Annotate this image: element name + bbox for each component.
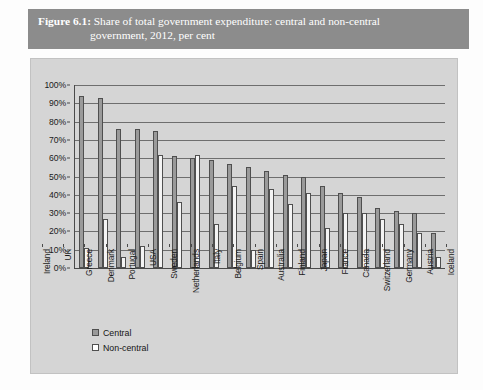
bar-group[interactable] [205,85,224,268]
x-axis-label-cell: USA [137,244,158,308]
x-axis-tick-mark [233,244,234,247]
caption-line-1: Figure 6.1: Share of total government ex… [38,14,459,28]
plot-area: 0%10%20%30%40%50%60%70%80%90%100% [74,85,445,269]
y-axis-tick-mark [67,103,70,104]
caption-line-2: government, 2012, per cent [90,28,459,42]
x-axis-tick-label: USA [148,249,158,266]
bar-group[interactable] [242,85,261,268]
x-axis-tick-mark [255,244,256,247]
x-axis-tick-mark [212,244,213,247]
bar-central[interactable] [79,96,84,268]
legend-swatch-icon [92,344,99,351]
y-axis-tick-label: 20% [49,226,66,236]
x-axis-tick-mark [191,244,192,247]
legend-label: Non-central [103,343,148,353]
bar-series-container [75,85,445,268]
x-axis-tick-label: Belgium [233,249,243,279]
bar-group[interactable] [390,85,409,268]
x-axis-label-cell: Spain [244,244,265,308]
y-axis-tick-label: 50% [49,172,66,182]
x-axis-tick-mark [127,244,128,247]
bar-group[interactable] [112,85,131,268]
y-axis-tick-mark [67,121,70,122]
legend-swatch-icon [92,329,99,336]
bar-group[interactable] [334,85,353,268]
x-axis-tick-mark [361,244,362,247]
x-axis-label-cell: Iceland [436,244,457,308]
y-axis-tick-label: 100% [44,80,66,90]
bar-group[interactable] [260,85,279,268]
x-axis-label-cell: Ireland [31,244,52,308]
y-axis-tick-mark [67,85,70,86]
x-axis-tick-label: Greece [84,249,94,276]
x-axis-tick-label: Italy [212,249,222,264]
y-axis: 0%10%20%30%40%50%60%70%80%90%100% [34,85,70,268]
x-axis-label-cell: Netherlands [180,244,201,308]
x-axis-tick-mark [446,244,447,247]
x-axis-tick-mark [425,244,426,247]
x-axis-tick-mark [382,244,383,247]
x-axis-tick-label: Iceland [446,249,456,275]
y-axis-tick-mark [67,231,70,232]
x-axis-tick-label: Germany [404,249,414,283]
bar-group[interactable] [168,85,187,268]
x-axis-tick-label: Austria [425,249,435,274]
x-axis-tick-label: Japan [319,249,329,271]
bar-group[interactable] [316,85,335,268]
x-axis-tick-mark [404,244,405,247]
bar-group[interactable] [186,85,205,268]
x-axis-tick-mark [297,244,298,247]
figure-container: Figure 6.1: Share of total government ex… [0,0,483,390]
x-axis-label-cell: Portugal [116,244,137,308]
bar-group[interactable] [297,85,316,268]
x-axis-tick-label: Spain [255,249,265,270]
x-axis-label-cell: Denmark [95,244,116,308]
y-axis-tick-label: 90% [49,98,66,108]
x-axis-tick-label: France [340,249,350,274]
x-axis-label-cell: Austria [414,244,435,308]
x-axis-tick-mark [63,244,64,247]
x-axis-tick-label: Netherlands [191,249,201,293]
bar-group[interactable] [223,85,242,268]
y-axis-tick-label: 70% [49,135,66,145]
chart-frame: 0%10%20%30%40%50%60%70%80%90%100% Irelan… [30,58,458,374]
bar-group[interactable] [279,85,298,268]
y-axis-tick-mark [67,213,70,214]
chart-legend: CentralNon-central [92,327,148,357]
caption-title-text: Share of total government expenditure: c… [91,15,380,27]
x-axis-label-cell: Greece [74,244,95,308]
x-axis-label-cell: Germany [393,244,414,308]
legend-item[interactable]: Non-central [92,342,148,353]
x-axis-tick-mark [319,244,320,247]
bar-group[interactable] [371,85,390,268]
caption-figure-number: Figure 6.1: [38,15,91,27]
legend-item[interactable]: Central [92,327,148,338]
x-axis-tick-mark [148,244,149,247]
x-axis-label-cell: France [329,244,350,308]
x-axis-label-cell: Italy [201,244,222,308]
figure-caption: Figure 6.1: Share of total government ex… [28,9,469,49]
x-axis-tick-label: Switzerland [382,249,392,291]
bar-group[interactable] [149,85,168,268]
y-axis-tick-label: 60% [49,153,66,163]
x-axis: IrelandUKGreeceDenmarkPortugalUSASwedenN… [31,244,457,308]
bar-group[interactable] [75,85,94,268]
x-axis-tick-mark [169,244,170,247]
y-axis-tick-label: 40% [49,190,66,200]
x-axis-tick-label: Portugal [127,249,137,279]
x-axis-label-cell: Sweden [159,244,180,308]
x-axis-tick-mark [42,244,43,247]
bar-group[interactable] [131,85,150,268]
y-axis-tick-mark [67,158,70,159]
y-axis-tick-mark [67,176,70,177]
x-axis-tick-label: Denmark [106,249,116,282]
bar-group[interactable] [353,85,372,268]
x-axis-label-cell: Canada [350,244,371,308]
bar-group[interactable] [94,85,113,268]
x-axis-tick-mark [340,244,341,247]
bar-group[interactable] [427,85,446,268]
x-axis-label-cell: Belgium [223,244,244,308]
x-axis-tick-mark [276,244,277,247]
bar-group[interactable] [408,85,427,268]
x-axis-label-cell: Finland [287,244,308,308]
